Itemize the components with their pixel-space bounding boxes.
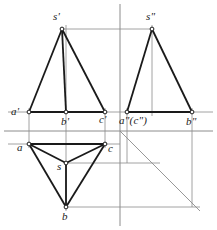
label-a-prime: a': [11, 106, 19, 117]
vertex-b-dprime: [190, 110, 194, 114]
front-view-outline: [29, 29, 105, 112]
front-edge-s-a: [29, 29, 62, 112]
vertex-s-dprime: [150, 27, 154, 31]
vertex-b: [64, 205, 68, 209]
label-c: c: [108, 143, 113, 154]
top-view-outline: [29, 144, 105, 207]
label-b: b: [62, 211, 68, 222]
label-a-c-double-prime: a"(c"): [119, 115, 147, 126]
side-edge-s-ac: [127, 29, 152, 112]
miter-line-45deg: [120, 131, 200, 211]
projection-lines: [8, 25, 213, 211]
vertex-a: [27, 142, 31, 146]
label-s-prime: s': [53, 11, 60, 22]
side-edge-s-b: [152, 29, 192, 112]
vertex-b-prime: [64, 110, 68, 114]
label-a: a: [17, 142, 23, 153]
projection-drawing: s' s" a' b' c' a"(c") b" a c s b: [0, 0, 217, 230]
front-edge-s-b: [62, 29, 66, 112]
vertex-c: [103, 142, 107, 146]
front-edge-s-c: [62, 29, 105, 112]
label-b-double-prime: b": [186, 116, 197, 127]
label-s-double-prime: s": [146, 11, 155, 22]
label-c-prime: c': [99, 114, 107, 125]
vertex-a-prime: [27, 110, 31, 114]
projection-drawing-canvas: [0, 0, 217, 230]
label-b-prime: b': [61, 116, 69, 127]
side-view-outline: [127, 29, 192, 112]
vertex-s-prime: [60, 27, 64, 31]
label-s: s: [57, 161, 61, 172]
vertex-s: [64, 161, 68, 165]
